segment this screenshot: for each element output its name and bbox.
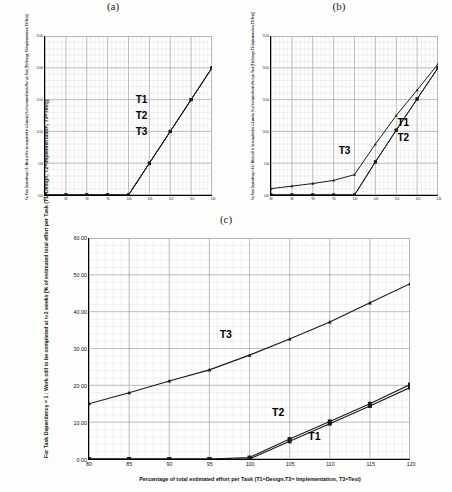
panel-a: (a) For Task Dependency = 0 : Work still… [0, 0, 226, 215]
y-tick-label: 50.00 [74, 272, 90, 278]
x-tick-label: 90 [311, 195, 314, 201]
x-tick-label: 85 [64, 195, 67, 201]
y-tick-label: 25.00 [263, 35, 272, 38]
x-tick-label: 90 [167, 459, 173, 467]
series-label-t1: T1 [136, 93, 148, 104]
x-tick-label: 80 [86, 459, 92, 467]
x-tick-label: 110 [395, 195, 400, 201]
y-tick-label: 15.00 [263, 99, 272, 102]
series-label-t1: T1 [397, 116, 409, 127]
y-tick-label: 30.00 [74, 346, 90, 352]
panel-c: (c) For Task Dependency = 1 : Work still… [0, 213, 452, 492]
series-label-t3: T3 [220, 328, 232, 340]
panel-c-y-axis-caption: For Task Dependency = 1 : Work still to … [44, 236, 50, 458]
x-tick-label: 120 [407, 459, 416, 467]
series-label-t1: T1 [308, 430, 320, 442]
panel-c-y-caption-line1: For Task Dependency = 1 : Work still to … [44, 236, 50, 458]
y-tick-label: 10.00 [74, 420, 90, 426]
x-tick-label: 95 [106, 195, 109, 201]
series-label-t3: T3 [339, 144, 351, 155]
y-tick-label: 20.00 [37, 67, 46, 70]
series-label-t2: T2 [397, 132, 409, 143]
panel-a-label: (a) [0, 0, 226, 12]
x-tick-label: 90 [85, 195, 88, 201]
panel-a-y-axis-caption: For Task Dependency = 0 : Work still to … [26, 35, 29, 200]
x-tick-label: 95 [207, 459, 213, 467]
x-tick-label: 105 [286, 459, 295, 467]
panel-b: (b) For Task Dependency = 0.5 : Work sti… [226, 0, 452, 215]
x-tick-label: 120 [211, 195, 216, 201]
y-tick-label: 20.00 [263, 67, 272, 70]
x-tick-label: 100 [246, 459, 255, 467]
x-tick-label: 115 [416, 195, 421, 201]
x-tick-label: 95 [332, 195, 335, 201]
x-tick-label: 120 [437, 195, 442, 201]
panel-a-plot-area: 0.005.0010.0015.0020.0025.00808590951001… [44, 36, 212, 196]
x-tick-label: 100 [353, 195, 358, 201]
panel-b-y-caption-line1: For Task Dependency = 0.5 : Work still t… [252, 35, 255, 200]
y-tick-label: 40.00 [74, 309, 90, 315]
panel-b-y-axis-caption: For Task Dependency = 0.5 : Work still t… [252, 35, 255, 200]
panel-b-label: (b) [226, 0, 452, 12]
panel-a-y-caption-line1: For Task Dependency = 0 : Work still to … [26, 35, 29, 200]
panel-c-plot-area: 0.0010.0020.0030.0040.0050.0060.00808590… [88, 238, 410, 460]
x-tick-label: 115 [367, 459, 375, 467]
panel-c-label: (c) [0, 213, 452, 225]
x-tick-label: 80 [269, 195, 272, 201]
y-tick-label: 20.00 [74, 383, 90, 389]
x-tick-label: 110 [169, 195, 174, 201]
series-label-t2: T2 [136, 110, 148, 121]
figure-page: (a) For Task Dependency = 0 : Work still… [0, 0, 452, 492]
y-tick-label: 5.00 [264, 163, 271, 166]
y-tick-label: 60.00 [74, 235, 90, 241]
x-tick-label: 105 [148, 195, 153, 201]
x-tick-label: 100 [127, 195, 132, 201]
panel-b-plot-area: 0.005.0010.0015.0020.0025.00808590951001… [270, 36, 438, 196]
series-label-t3: T3 [136, 126, 148, 137]
y-tick-label: 25.00 [37, 35, 46, 38]
panel-c-x-axis-caption: Percentage of total estimated effort per… [60, 476, 440, 482]
x-tick-label: 85 [290, 195, 293, 201]
y-tick-label: 10.00 [263, 131, 272, 134]
series-label-t2: T2 [272, 406, 284, 418]
x-tick-label: 85 [126, 459, 132, 467]
x-tick-label: 115 [190, 195, 195, 201]
x-tick-label: 110 [326, 459, 334, 467]
x-tick-label: 105 [374, 195, 379, 201]
